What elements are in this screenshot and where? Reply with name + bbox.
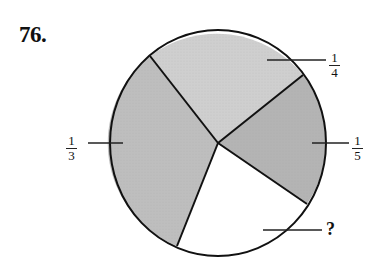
- pie-chart: [0, 0, 381, 261]
- denominator: 3: [68, 150, 75, 162]
- numerator: 1: [354, 135, 361, 147]
- label-one-fourth: 1 4: [329, 52, 340, 79]
- label-one-fifth: 1 5: [352, 135, 363, 162]
- numerator: 1: [68, 135, 75, 147]
- label-one-third: 1 3: [66, 135, 77, 162]
- denominator: 4: [331, 67, 338, 79]
- label-unknown: ?: [326, 219, 335, 240]
- denominator: 5: [354, 150, 361, 162]
- numerator: 1: [331, 52, 338, 64]
